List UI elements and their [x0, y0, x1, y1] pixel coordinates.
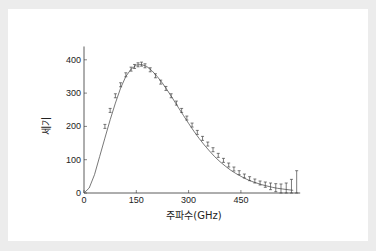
theory-curve	[84, 65, 293, 194]
y-tick-label: 300	[66, 88, 81, 98]
x-axis-title: 주파수(GHz)	[166, 210, 221, 221]
y-tick-label: 400	[66, 55, 81, 65]
y-tick-label: 200	[66, 121, 81, 131]
y-tick-label: 100	[66, 155, 81, 165]
x-tick-label: 0	[81, 195, 86, 205]
y-axis-title: 세기	[41, 117, 52, 135]
y-tick-label: 0	[76, 188, 81, 198]
x-tick-label: 150	[129, 195, 144, 205]
x-tick-label: 300	[181, 195, 196, 205]
chart: 01002003004000150300450 주파수(GHz) 세기	[0, 0, 376, 251]
plot-area: 01002003004000150300450	[66, 46, 300, 205]
x-tick-label: 450	[233, 195, 248, 205]
